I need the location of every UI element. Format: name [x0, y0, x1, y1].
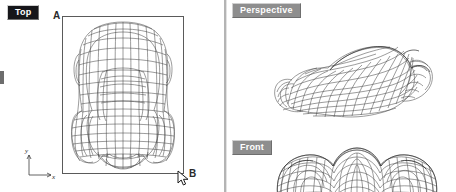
corner-marker-a: A — [53, 10, 60, 21]
cad-application-window: Top A B — [0, 0, 456, 192]
gnomon-label-x: x — [51, 173, 56, 180]
car-wireframe-top-view — [64, 16, 182, 174]
car-wireframe-perspective-view — [270, 26, 446, 130]
viewport-title-perspective[interactable]: Perspective — [232, 3, 301, 18]
mouse-cursor-arrow — [177, 170, 190, 187]
viewport-title-front[interactable]: Front — [232, 140, 272, 155]
viewport-title-top[interactable]: Top — [7, 5, 39, 20]
car-wireframe-front-view — [272, 142, 442, 192]
corner-marker-b: B — [189, 168, 196, 179]
viewport-top[interactable]: Top A B — [0, 0, 222, 192]
axis-gnomon-top: y x — [24, 146, 58, 180]
gnomon-label-y: y — [24, 147, 29, 155]
clipped-edge-marker — [0, 71, 4, 84]
viewport-divider-vertical[interactable] — [224, 0, 226, 192]
